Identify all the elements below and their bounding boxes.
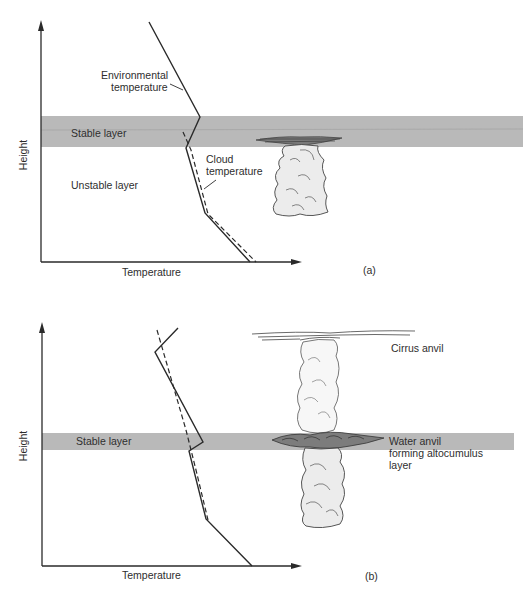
label-water-anvil-line1: Water anvil [389, 435, 441, 447]
x-axis-arrow-icon [291, 259, 302, 265]
diagram-panel-a: Height Temperature (a) Environmental tem… [0, 0, 523, 290]
label-cloud-temperature-line1: Cloud [206, 153, 233, 165]
x-axis-label: Temperature [122, 569, 181, 581]
y-axis-label: Height [17, 140, 29, 170]
y-axis-label: Height [17, 431, 29, 461]
x-axis-label: Temperature [122, 266, 181, 278]
label-environmental-temperature-line1: Environmental [101, 69, 168, 81]
panel-caption: (b) [365, 570, 378, 582]
cumulus-cloud-icon [256, 137, 342, 216]
panel-a-graphic [0, 0, 523, 290]
label-cirrus-anvil: Cirrus anvil [391, 342, 444, 354]
cloud-temperature-line [157, 330, 208, 520]
y-axis-arrow-icon [38, 20, 44, 31]
panel-caption: (a) [363, 264, 376, 276]
label-cloud-temperature-line2: temperature [206, 165, 263, 177]
label-unstable-layer: Unstable layer [71, 179, 138, 191]
cloud-temperature-line [183, 132, 256, 262]
diagram-panel-b: Height Temperature (b) Stable layer Cirr… [0, 290, 523, 592]
label-water-anvil-line3: layer [389, 459, 412, 471]
label-environmental-temperature-line2: temperature [111, 81, 168, 93]
y-axis-arrow-icon [39, 322, 45, 333]
label-stable-layer: Stable layer [71, 127, 126, 139]
x-axis-arrow-icon [291, 563, 302, 569]
label-stable-layer: Stable layer [76, 435, 131, 447]
label-water-anvil-line2: forming altocumulus [389, 447, 483, 459]
cumulonimbus-cloud-icon [252, 331, 415, 528]
